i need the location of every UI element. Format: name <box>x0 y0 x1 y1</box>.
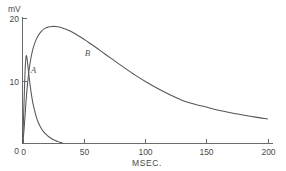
y-axis-unit-label: mV <box>8 4 21 14</box>
chart-figure: 01020 050100150200 mV MSEC. AB <box>0 0 286 171</box>
x-axis-title: MSEC. <box>132 158 162 168</box>
x-tick-label-100: 100 <box>138 147 152 157</box>
y-tick-label-10: 10 <box>10 77 20 87</box>
curve-label-b: B <box>85 48 91 58</box>
curve-label-a: A <box>30 65 37 75</box>
emg-potential-line-chart: 01020 050100150200 mV MSEC. AB <box>0 0 286 171</box>
plot-background <box>0 0 286 171</box>
x-tick-label-200: 200 <box>261 147 275 157</box>
y-tick-label-20: 20 <box>10 14 20 24</box>
y-tick-label-0: 0 <box>14 146 19 156</box>
x-tick-label-0: 0 <box>21 147 26 157</box>
x-tick-label-50: 50 <box>80 147 90 157</box>
x-tick-label-150: 150 <box>199 147 213 157</box>
